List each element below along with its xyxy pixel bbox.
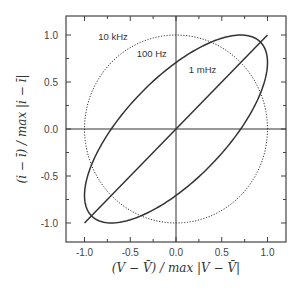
frequency-annotations: 10 kHz100 Hz1 mHz: [98, 31, 216, 75]
y-tick-label: -1.0: [41, 218, 59, 229]
lissajous-chart: -1.0-0.50.00.51.0 -1.0-0.50.00.51.0 10 k…: [0, 0, 300, 290]
x-tick-label: 0.0: [169, 247, 183, 258]
y-tick-label: 0.0: [44, 124, 58, 135]
y-tick-label: 1.0: [44, 30, 58, 41]
y-axis-label: (i − ī) / max |i − ī|: [15, 75, 29, 184]
x-tick-label: -1.0: [76, 247, 94, 258]
x-tick-label: -0.5: [122, 247, 140, 258]
annotation-label: 10 kHz: [98, 31, 128, 42]
y-tick-label: 0.5: [44, 77, 58, 88]
x-axis-label: (V − V̄) / max |V − V̄|: [112, 260, 240, 275]
annotation-label: 100 Hz: [137, 48, 167, 59]
y-tick-label: -0.5: [41, 171, 59, 182]
x-tick-label: 0.5: [215, 247, 229, 258]
data-series: [85, 35, 268, 223]
x-tick-label: 1.0: [261, 247, 275, 258]
annotation-label: 1 mHz: [189, 64, 217, 75]
